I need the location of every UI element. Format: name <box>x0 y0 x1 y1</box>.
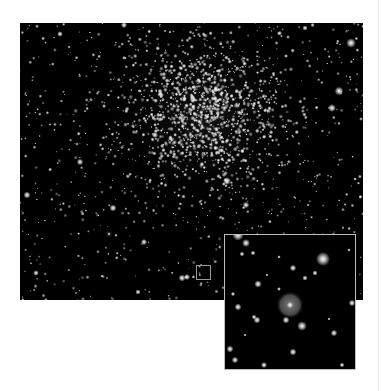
nebula-inset-image <box>224 234 356 370</box>
page-edge-line <box>378 0 379 391</box>
inset-marker-box <box>196 265 211 280</box>
nebula-canvas <box>225 235 355 369</box>
